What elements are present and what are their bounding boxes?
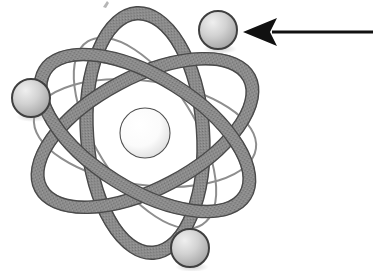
- arrow-shaft: [272, 31, 373, 34]
- electron-left: [12, 79, 50, 122]
- electron-top-right: [199, 11, 237, 54]
- atom-diagram-figure: Schematic atom with a central nucleus, t…: [0, 0, 374, 271]
- atom-illustration: [0, 0, 374, 271]
- nucleus: [120, 108, 170, 158]
